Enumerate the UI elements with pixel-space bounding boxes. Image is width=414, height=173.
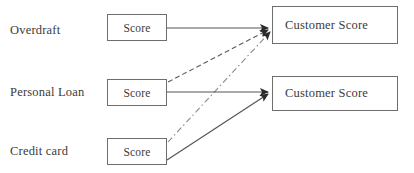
row-label-credit-card: Credit card — [10, 144, 68, 159]
score-box-personal-loan[interactable]: Score — [107, 79, 167, 106]
customer-score-label: Customer Score — [285, 86, 368, 101]
score-box-label: Score — [123, 87, 150, 99]
score-box-label: Score — [123, 22, 150, 34]
customer-score-top[interactable]: Customer Score — [272, 6, 398, 44]
score-box-credit-card[interactable]: Score — [107, 138, 167, 165]
score-box-label: Score — [123, 146, 150, 158]
edge-credit-card-to-bottom — [167, 94, 268, 160]
score-box-overdraft[interactable]: Score — [107, 14, 167, 41]
edge-credit-card-to-top — [168, 32, 270, 142]
edge-personal-loan-to-top — [168, 30, 268, 82]
customer-score-bottom[interactable]: Customer Score — [272, 76, 398, 111]
diagram-canvas: OverdraftScorePersonal LoanScoreCredit c… — [0, 0, 414, 173]
row-label-personal-loan: Personal Loan — [10, 85, 84, 100]
row-label-overdraft: Overdraft — [10, 23, 60, 38]
customer-score-label: Customer Score — [285, 18, 368, 33]
edges-group — [167, 28, 270, 160]
